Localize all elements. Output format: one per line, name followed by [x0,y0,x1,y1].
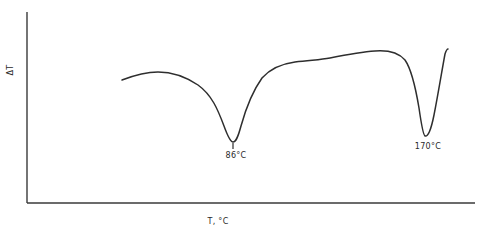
dta-curve [122,49,448,142]
dta-chart: ΔT T, °C 86°C 170°C [0,0,486,233]
peak2-label: 170°C [415,142,441,151]
y-axis-label: ΔT [6,65,15,76]
x-axis-label: T, °C [206,217,228,226]
peak1-label: 86°C [226,151,247,160]
